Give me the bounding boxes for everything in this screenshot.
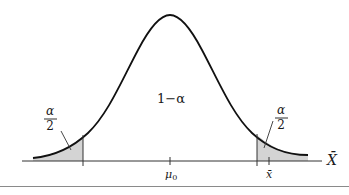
xbar-label: x̄ (266, 168, 273, 181)
center-area-label: 1−α (157, 91, 185, 106)
right-alpha-numerator: α (277, 103, 285, 117)
hypothesis-test-diagram: 1−α α 2 α 2 X̄ μ0 x̄ (0, 0, 349, 195)
left-alpha-numerator: α (46, 104, 54, 118)
normal-curve (33, 15, 308, 158)
left-label-leader (61, 131, 71, 150)
right-tail-region (257, 135, 308, 161)
right-alpha-denominator: 2 (277, 118, 285, 132)
left-alpha-denominator: 2 (46, 119, 54, 133)
axis-label: X̄ (326, 151, 338, 168)
mu0-label: μ0 (165, 168, 177, 182)
